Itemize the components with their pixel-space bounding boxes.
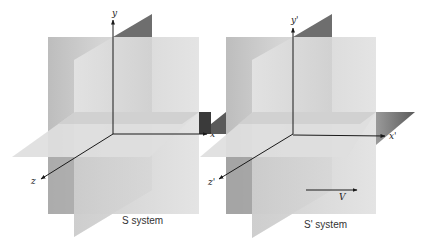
s-prime-system: y' x' z' V S' system [200, 14, 415, 238]
relativity-diagram: y x z S system y' x' z' V S' system [0, 0, 422, 246]
s-yz-plane-top-wedge [113, 14, 152, 37]
sp-z-label: z' [207, 177, 215, 187]
s-y-label: y [111, 8, 118, 18]
s-system: y x z S system [12, 8, 215, 237]
s-caption: S system [122, 215, 163, 226]
sp-x-label: x' [389, 131, 397, 141]
sp-xz-plane-back [238, 112, 376, 124]
sp-xz-plane-left-wedge [211, 112, 226, 134]
sp-back-shadow [226, 157, 252, 214]
s-back-shadow [48, 157, 74, 214]
sp-y-label: y' [290, 15, 299, 25]
s-xz-plane-back [58, 112, 199, 124]
sp-yz-plane-top-wedge [293, 14, 332, 37]
sp-caption: S' system [304, 219, 347, 230]
s-z-label: z [30, 176, 36, 186]
